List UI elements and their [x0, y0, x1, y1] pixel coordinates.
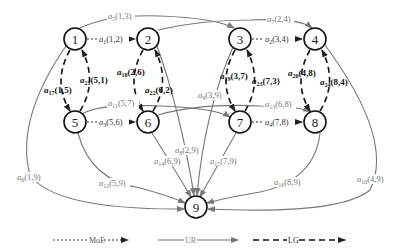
label-a21: a21(5,1) — [80, 75, 108, 86]
svg-text:MoE: MoE — [89, 236, 105, 245]
edge-a20 — [301, 50, 310, 111]
label-a8: a8(2,9) — [175, 145, 199, 156]
label-a7: a7(2,4) — [267, 14, 291, 25]
legend: MoE UR LG — [53, 236, 345, 245]
legend-moe: MoE — [53, 236, 128, 245]
label-a3: a3(5,6) — [99, 117, 123, 128]
label-a22: a22(6,2) — [145, 85, 173, 96]
node-1: 1 — [64, 28, 86, 50]
label-a1: a1(1,2) — [99, 34, 123, 45]
svg-text:LG: LG — [288, 236, 299, 245]
edge-a12 — [78, 133, 185, 203]
svg-text:2: 2 — [145, 32, 152, 47]
label-a16: a16(8,9) — [274, 177, 301, 188]
label-a6: a6(1,9) — [17, 172, 41, 183]
edge-a16 — [207, 133, 320, 203]
node-9: 9 — [185, 196, 207, 218]
label-a20: a20(4,8) — [288, 68, 316, 79]
node-6: 6 — [137, 111, 159, 133]
svg-text:UR: UR — [185, 236, 197, 245]
graph-diagram: a1(1,2) a2(3,4) a3(5,6) a4(7,8) a5(1,3) … — [0, 0, 399, 249]
svg-text:5: 5 — [72, 115, 79, 130]
svg-text:9: 9 — [193, 200, 200, 215]
edge-a17 — [61, 50, 70, 111]
svg-text:8: 8 — [312, 115, 319, 130]
svg-text:7: 7 — [237, 115, 244, 130]
label-a5: a5(1,3) — [108, 11, 132, 22]
legend-lg: LG — [253, 236, 345, 245]
node-3: 3 — [229, 28, 251, 50]
label-a12: a12(5,9) — [99, 178, 126, 189]
label-a13: a13(6,8) — [265, 99, 292, 110]
label-a23: a23(7,3) — [252, 76, 280, 87]
node-8: 8 — [304, 111, 326, 133]
label-a9: a9(3,9) — [198, 90, 222, 101]
node-5: 5 — [64, 111, 86, 133]
node-2: 2 — [137, 28, 159, 50]
label-a15: a15(7,9) — [210, 156, 237, 167]
svg-text:4: 4 — [312, 32, 319, 47]
node-7: 7 — [229, 111, 251, 133]
label-a2: a2(3,4) — [265, 34, 289, 45]
legend-ur: UR — [158, 236, 238, 245]
label-a11: a11(5,7) — [108, 98, 134, 109]
svg-text:6: 6 — [145, 115, 152, 130]
label-a17: a17(1,5) — [44, 85, 72, 96]
label-a18: a18(2,6) — [117, 67, 145, 78]
edge-a8 — [157, 46, 194, 195]
svg-text:1: 1 — [72, 32, 79, 47]
label-a24: a24(8,4) — [320, 77, 348, 88]
label-a19: a19(3,7) — [220, 71, 248, 82]
label-a14: a14(6,9) — [154, 156, 181, 167]
label-a10: a10(4,9) — [357, 174, 384, 185]
node-4: 4 — [304, 28, 326, 50]
svg-text:3: 3 — [237, 32, 244, 47]
label-a4: a4(7,8) — [265, 117, 289, 128]
